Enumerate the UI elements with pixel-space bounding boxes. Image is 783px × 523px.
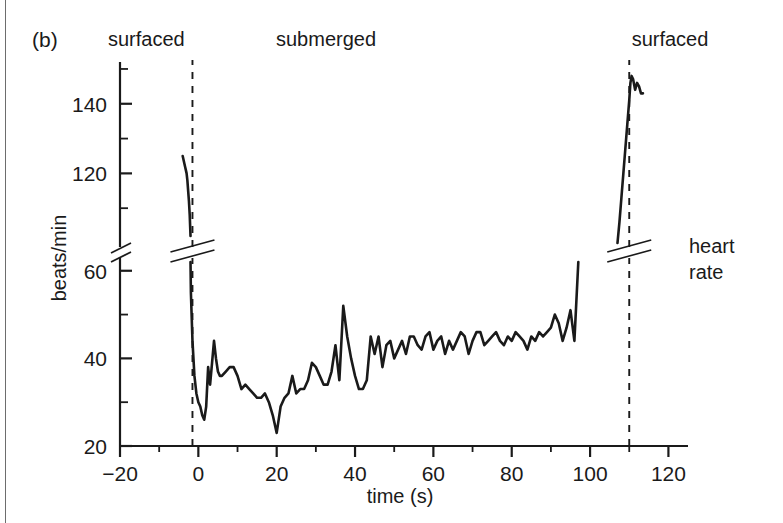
axes xyxy=(120,62,688,457)
x-axis-title: time (s) xyxy=(367,485,434,507)
y-tick-label-upper: 140 xyxy=(72,93,107,116)
figure-panel-b: (b) surfaced submerged surfaced heart ra… xyxy=(0,0,783,523)
phase-label-submerged: submerged xyxy=(276,28,376,50)
side-label-heart: heart xyxy=(689,235,735,257)
x-tick-label: −20 xyxy=(102,462,138,485)
x-tick-label: 120 xyxy=(651,462,686,485)
data-trace xyxy=(617,76,642,243)
x-tick-label: 60 xyxy=(422,462,445,485)
y-tick-label-upper: 120 xyxy=(72,162,107,185)
x-tick-label: 20 xyxy=(265,462,288,485)
x-tick-label: 0 xyxy=(193,462,205,485)
panel-label: (b) xyxy=(32,28,58,51)
data-trace xyxy=(183,156,191,236)
x-tick-label: 100 xyxy=(573,462,608,485)
data-trace xyxy=(191,262,579,433)
x-tick-label: 40 xyxy=(343,462,366,485)
side-label-rate: rate xyxy=(689,261,723,283)
y-axis-title: beats/min xyxy=(48,215,70,302)
phase-label-surfaced-pre: surfaced xyxy=(108,28,185,50)
x-tick-label: 80 xyxy=(500,462,523,485)
heart-rate-chart: (b) surfaced submerged surfaced heart ra… xyxy=(0,0,783,523)
y-tick-label-lower: 60 xyxy=(84,260,107,283)
y-tick-label-lower: 40 xyxy=(84,347,107,370)
y-tick-label-lower: 20 xyxy=(84,435,107,458)
data-traces xyxy=(183,76,643,433)
phase-label-surfaced-post: surfaced xyxy=(632,28,709,50)
tick-labels: −20020406080100120204060120140 xyxy=(72,93,686,485)
event-lines xyxy=(192,60,629,446)
